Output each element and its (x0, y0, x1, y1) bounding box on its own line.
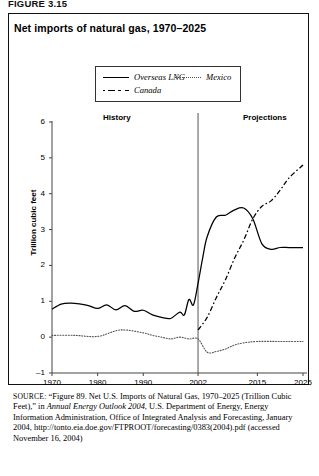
x-tick-label: 1990 (126, 378, 160, 387)
y-tick-label: 4 (29, 189, 45, 198)
source-note: SOURCE: “Figure 89. Net U.S. Imports of … (13, 392, 309, 444)
legend-label: Mexico (206, 72, 231, 82)
x-tick-label: 2025 (286, 378, 319, 387)
figure-label: FIGURE 3.15 (8, 0, 67, 9)
source-prefix: SOURCE: (13, 392, 46, 401)
x-tick-label: 2002 (181, 378, 215, 387)
legend-item-mexico: Mexico (175, 71, 231, 83)
dash-dot-line-swatch (103, 87, 129, 94)
y-tick-label: 0 (29, 332, 45, 341)
legend-item-overseas-lng: Overseas LNG (103, 71, 185, 83)
history-annotation: History (103, 113, 131, 122)
chart-legend: Overseas LNG Canada Mexico (95, 66, 241, 102)
y-tick-label: –1 (29, 368, 45, 377)
projections-annotation: Projections (243, 113, 287, 122)
x-tick-label: 1970 (35, 378, 69, 387)
figure-title: Net imports of natural gas, 1970–2025 (14, 22, 206, 34)
figure-page: FIGURE 3.15 Net imports of natural gas, … (0, 0, 319, 476)
y-tick-label: 5 (29, 153, 45, 162)
solid-line-swatch (103, 74, 129, 81)
legend-label: Canada (134, 85, 161, 95)
dotted-line-swatch (175, 74, 201, 81)
x-tick-label: 1980 (81, 378, 115, 387)
x-tick-label: 2015 (240, 378, 274, 387)
y-tick-label: 3 (29, 225, 45, 234)
source-publication: Annual Energy Outlook 2004 (47, 402, 145, 411)
y-tick-label: 1 (29, 296, 45, 305)
legend-item-canada: Canada (103, 84, 161, 96)
y-tick-label: 2 (29, 260, 45, 269)
y-tick-label: 6 (29, 117, 45, 126)
